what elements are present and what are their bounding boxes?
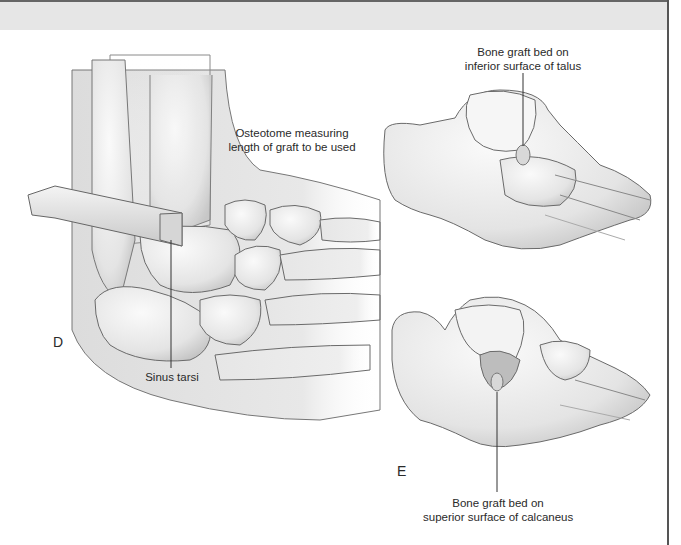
panel-d-ankle: [72, 55, 380, 420]
panel-letter-d: D: [53, 334, 63, 350]
sinus-tarsi-label: Sinus tarsi: [136, 370, 208, 384]
calcaneus-graft-bed: [491, 373, 503, 391]
panel-talus-foot: [384, 90, 651, 249]
talus-graft-bed: [516, 145, 530, 165]
calcaneus-graft-label-line1: Bone graft bed on: [423, 496, 573, 510]
talus-graft-label-line2: inferior surface of talus: [443, 59, 603, 73]
calcaneus-graft-label-line2: superior surface of calcaneus: [423, 510, 573, 524]
osteotome-label: Osteotome measuring length of graft to b…: [222, 126, 362, 154]
osteotome-label-line2: length of graft to be used: [222, 140, 362, 154]
panel-letter-e: E: [397, 463, 406, 479]
osteotome-label-line1: Osteotome measuring: [222, 126, 362, 140]
anatomical-illustration: [0, 0, 681, 545]
calcaneus-graft-label: Bone graft bed on superior surface of ca…: [423, 496, 573, 524]
talus-graft-label-line1: Bone graft bed on: [443, 45, 603, 59]
panel-e-calcaneus-foot: [392, 297, 650, 447]
talus-graft-label: Bone graft bed on inferior surface of ta…: [443, 45, 603, 73]
